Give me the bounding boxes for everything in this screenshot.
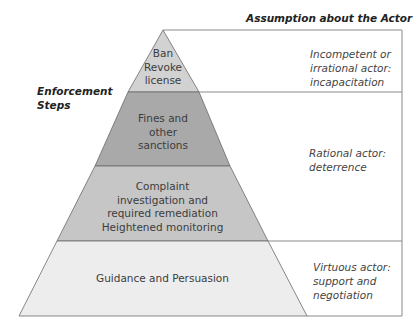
step-line: Guidance and Persuasion [60, 272, 265, 286]
step-line: Heightened monitoring [80, 221, 245, 235]
step-line: Revoke [138, 61, 188, 75]
assumption-line: Virtuous actor: [313, 260, 391, 274]
assumption-line: deterrence [309, 160, 386, 174]
enforcement-steps-text: Enforcement Steps [37, 84, 107, 112]
assumption-incompetent: Incompetent or irrational actor: incapac… [310, 47, 391, 89]
assumption-virtuous: Virtuous actor: support and negotiation [313, 260, 391, 302]
step-line: Fines and [113, 112, 213, 126]
assumption-line: support and [313, 274, 391, 288]
step-fines: Fines and other sanctions [113, 112, 213, 153]
step-complaint: Complaint investigation and required rem… [80, 180, 245, 234]
assumption-line: Rational actor: [309, 146, 386, 160]
step-line: sanctions [113, 139, 213, 153]
enforcement-steps-label: Enforcement Steps [37, 84, 107, 112]
assumption-header: Assumption about the Actor [246, 12, 412, 24]
assumption-line: Incompetent or [310, 47, 391, 61]
step-guidance: Guidance and Persuasion [60, 272, 265, 286]
step-line: other [113, 126, 213, 140]
assumption-rational: Rational actor: deterrence [309, 146, 386, 174]
assumption-line: negotiation [313, 288, 391, 302]
step-line: required remediation [80, 207, 245, 221]
step-line: investigation and [80, 194, 245, 208]
step-ban-revoke: Ban Revoke license [138, 47, 188, 88]
step-line: Complaint [80, 180, 245, 194]
assumption-line: incapacitation [310, 75, 391, 89]
step-line: Ban [138, 47, 188, 61]
assumption-line: irrational actor: [310, 61, 391, 75]
step-line: license [138, 74, 188, 88]
